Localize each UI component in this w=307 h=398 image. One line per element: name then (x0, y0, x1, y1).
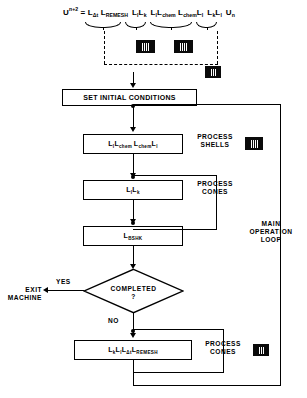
loop-cones-right (216, 175, 217, 230)
arrowhead-init-to-shells (130, 127, 136, 132)
dashed-bracket-bottom (104, 64, 218, 65)
decision-label: COMPLETED ? (83, 285, 184, 301)
comb-icon-cones-a (205, 66, 221, 78)
dashed-bracket-right (217, 31, 218, 64)
node-remesh[interactable]: LkLlLΔtLREMESH (74, 340, 192, 360)
brace-chem-group (150, 22, 192, 28)
connector-decision-to-exit (48, 290, 84, 291)
process-cones-formula: LlLk (126, 186, 140, 194)
operator-split-equation: Un+2=LΔtLREMESHLlLkLlLchemLchemLlLkLlUn (63, 9, 235, 17)
label-process-cones: PROCESS CONES (188, 180, 242, 196)
loop-cones-top (133, 175, 217, 176)
label-exit-machine: EXIT MACHINE (0, 286, 42, 302)
main-loop-down (133, 372, 134, 386)
equation-term-3: Lk (139, 8, 147, 17)
remesh-formula: LkLlLΔtLREMESH (108, 346, 158, 354)
equation-term-10: Un (226, 8, 235, 17)
loop-remesh-bottom (133, 372, 224, 373)
equation-term-9: Ll (215, 8, 222, 17)
equation-equals: = (80, 8, 85, 17)
equation-term-1: LREMESH (101, 8, 128, 17)
equation-term-0: LΔt (88, 8, 99, 17)
set-initial-conditions-label: SET INITIAL CONDITIONS (83, 94, 175, 101)
junction-bshk-top (131, 221, 135, 225)
equation-term-7: Ll (197, 8, 204, 17)
loop-remesh-top (133, 329, 224, 330)
loop-remesh-right (223, 329, 224, 373)
arrowhead-decision-to-remesh (130, 333, 136, 338)
label-yes: YES (56, 278, 71, 286)
equation-lhs: Un+2 (63, 8, 78, 17)
brace-lk2-group (196, 22, 217, 28)
brace-remesh-group (85, 22, 121, 28)
main-loop-top (133, 104, 281, 105)
label-process-shells: PROCESS SHELLS (188, 133, 242, 149)
main-loop-bottom (133, 385, 281, 386)
arrowhead-equation-to-init (130, 83, 136, 88)
comb-icon-shells-b (174, 40, 193, 53)
equation-term-6: Lchem (178, 8, 197, 17)
bshk-formula: LBSHK (124, 232, 143, 240)
label-no: NO (108, 317, 119, 325)
comb-icon-cones-legend (253, 344, 269, 356)
dashed-bracket-left (104, 31, 105, 64)
node-process-shells[interactable]: LlLchemLchemLl (83, 134, 183, 154)
process-shells-formula: LlLchemLchemLl (108, 140, 157, 148)
loop-cones-bottom (133, 229, 217, 230)
label-main-operation-loop: MAIN OPERATION LOOP (238, 220, 304, 244)
brace-lk-group (125, 22, 146, 28)
arrowhead-decision-to-exit (43, 287, 48, 293)
comb-icon-shells-legend (245, 137, 263, 150)
main-loop-right (280, 104, 281, 386)
node-process-cones[interactable]: LlLk (83, 180, 183, 200)
flowchart-diagram: Un+2=LΔtLREMESHLlLkLlLchemLchemLlLkLlUn … (0, 0, 307, 398)
comb-icon-shells-a (136, 40, 155, 53)
equation-term-5: Lchem (157, 8, 176, 17)
